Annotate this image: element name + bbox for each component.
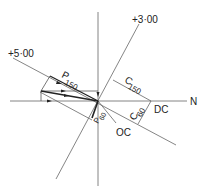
label-oc: OC <box>116 127 131 138</box>
diagram-canvas: +5·00 +3·00 N DC OC P 150 C 150 C 60 P 6… <box>0 0 205 192</box>
arrow-icon <box>61 90 66 93</box>
p150-box-left <box>41 76 50 91</box>
meridian-plus5-line <box>13 58 176 145</box>
label-p60-sub: 60 <box>98 111 108 121</box>
label-c150-sub: 150 <box>126 82 142 96</box>
label-plus5: +5·00 <box>8 48 34 59</box>
label-plus3: +3·00 <box>132 14 158 25</box>
arrow-icon <box>97 92 100 97</box>
arrow-icon <box>47 100 52 103</box>
vector-diagram: +5·00 +3·00 N DC OC P 150 C 150 C 60 P 6… <box>0 0 205 192</box>
label-dc: DC <box>154 104 168 115</box>
label-n: N <box>190 96 197 107</box>
